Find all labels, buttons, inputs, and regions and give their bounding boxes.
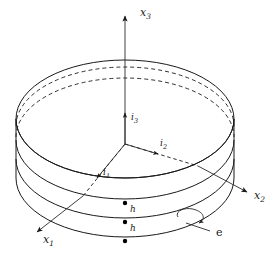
figure-root: x3 x2 x1 i3 i2 i1: [0, 0, 274, 263]
vector-label-i1-subscript: 1: [106, 172, 110, 180]
node-bottom: [123, 239, 127, 243]
label-thickness-lower: h: [130, 223, 136, 233]
vector-label-i3-subscript: 3: [134, 117, 138, 125]
disk-coordinate-diagram: x3 x2 x1 i3 i2 i1: [0, 0, 274, 263]
axis-label-x3-subscript: 3: [146, 12, 151, 21]
basis-vector-labels: i3 i2 i1: [103, 112, 167, 180]
vector-i2-line: [125, 144, 158, 154]
node-mid: [123, 220, 127, 224]
vector-label-i1: i1: [103, 167, 110, 180]
coordinate-axes: [37, 16, 247, 232]
axis-x2-solid-segment: [198, 166, 247, 192]
label-thickness-upper: h: [130, 204, 136, 214]
curl-leader-line: [186, 223, 210, 231]
axis-label-x3: x3: [140, 6, 151, 21]
annotation-labels: h h e: [130, 204, 223, 239]
vector-label-i3: i3: [131, 112, 138, 125]
axis-label-x1-subscript: 1: [49, 239, 54, 248]
axis-label-x2-subscript: 2: [259, 195, 265, 204]
axis-label-x1: x1: [43, 233, 54, 248]
vector-label-i2-subscript: 2: [162, 143, 167, 151]
rim-middle-front-arc: [16, 140, 234, 199]
edge-curl-annotation: [177, 209, 210, 231]
axis-label-x2: x2: [254, 189, 265, 204]
node-top: [123, 201, 127, 205]
basis-vectors: [97, 113, 158, 178]
label-edge-curve: e: [216, 226, 223, 239]
vector-i1-line: [97, 144, 125, 178]
axis-x1-solid-segment: [37, 196, 83, 232]
vector-label-i2: i2: [160, 138, 167, 151]
